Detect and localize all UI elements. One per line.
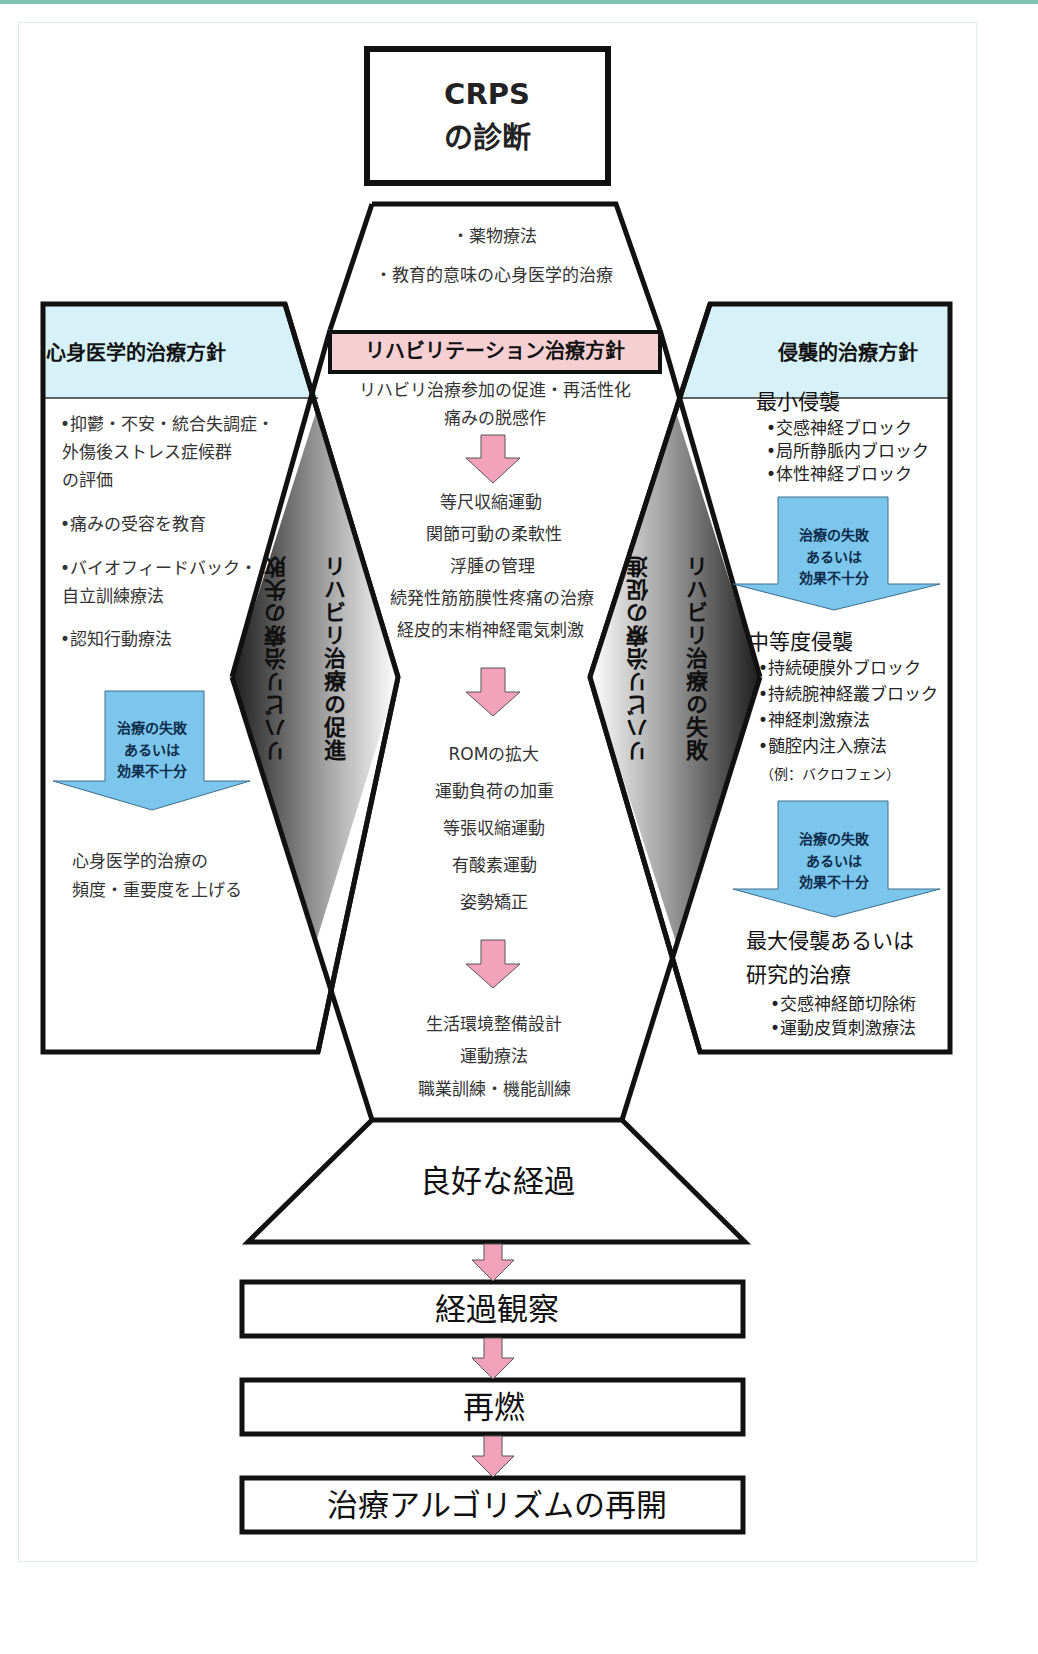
psychosomatic-escalation: 心身医学的治療の [72,853,208,870]
invasive-minimal-item: •体性神経ブロック [766,466,912,483]
right-diamond-outer-label: リハビリ治療の失敗 [678,555,710,762]
left-diamond-outer-label: リハビリ治療の失敗 [262,555,294,762]
right-diamond-inner-label: リハビリ治療の促進 [624,555,656,762]
followup-relapse: 再燃 [463,1392,525,1423]
failure-arrow-right-2-label: 治療の失敗 あるいは 効果不十分 [799,829,869,894]
invasive-minimal-item: •局所静脈内ブロック [766,443,929,460]
initial-treatment-item: ・薬物療法 [452,228,537,245]
pink-arrow-6 [472,1436,514,1477]
left-diamond-inner-label: リハビリ治療の促進 [316,555,348,762]
diagnosis-title: CRPS [444,80,530,109]
invasive-maximal-item: •交感神経節切除術 [770,996,916,1013]
rehab-stage2-item: 運動負荷の加重 [435,783,554,800]
left-diamond [232,412,398,942]
psychosomatic-item: •痛みの受容を教育 [60,516,206,533]
rehab-stage3-item: 生活環境整備設計 [426,1016,562,1033]
pink-arrow-3 [466,940,520,988]
rehab-stage1-item: 続発性筋筋膜性疼痛の治療 [390,590,594,607]
rehab-stage2-item: 姿勢矯正 [460,894,528,911]
invasive-moderate-item: •持続腕神経叢ブロック [758,686,938,703]
pink-arrow-5 [472,1338,514,1379]
pink-arrow-2 [466,668,520,716]
followup-observation: 経過観察 [435,1294,559,1325]
invasive-maximal-title: 最大侵襲あるいは [746,931,914,952]
psychosomatic-escalation: 頻度・重要度を上げる [72,882,242,899]
right-diamond [590,412,760,942]
rehab-stage1-item: 等尺収縮運動 [440,494,542,511]
invasive-maximal-item: •運動皮質刺激療法 [770,1020,916,1037]
failure-arrow-right-1-label: 治療の失敗 あるいは 効果不十分 [799,525,869,590]
rehab-stage1-item: 関節可動の柔軟性 [426,526,562,543]
rehab-stage3-item: 運動療法 [460,1048,528,1065]
psychosomatic-item: •認知行動療法 [60,631,172,648]
rehab-intro: 痛みの脱感作 [444,410,546,427]
pink-arrow-4 [472,1244,514,1281]
invasive-minimal-title: 最小侵襲 [756,392,840,413]
rehab-stage2-item: ROMの拡大 [449,746,540,763]
invasive-moderate-item: •髄腔内注入療法 [758,738,887,755]
diagnosis-box [367,49,608,183]
invasive-minimal-item: •交感神経ブロック [766,420,912,437]
followup-restart: 治療アルゴリズムの再開 [327,1490,667,1521]
psychosomatic-header: 心身医学的治療方針 [46,343,226,363]
psychosomatic-item: •バイオフィードバック・ [60,560,257,577]
invasive-moderate-item: •神経刺激療法 [758,712,870,729]
rehab-stage1-item: 浮腫の管理 [450,558,535,575]
psychosomatic-item: •抑鬱・不安・統合失調症・ [60,416,274,433]
rehab-intro: リハビリ治療参加の促進・再活性化 [359,382,631,399]
psychosomatic-item: の評価 [62,472,113,489]
invasive-moderate-note: （例：バクロフェン） [760,767,900,781]
rehab-header: リハビリテーション治療方針 [365,341,625,361]
rehab-stage1-item: 経皮的末梢神経電気刺激 [397,622,584,639]
psychosomatic-item: 外傷後ストレス症候群 [62,444,232,461]
invasive-moderate-item: •持続硬膜外ブロック [758,660,921,677]
outcome-label: 良好な経過 [420,1166,575,1197]
invasive-moderate-title: 中等度侵襲 [748,632,853,653]
rehab-stage3-item: 職業訓練・機能訓練 [418,1081,571,1098]
initial-treatment-item: ・教育的意味の心身医学的治療 [375,267,613,284]
failure-arrow-left-label: 治療の失敗 あるいは 効果不十分 [117,718,187,783]
invasive-header: 侵襲的治療方針 [778,343,918,363]
rehab-stage2-item: 等張収縮運動 [443,820,545,837]
rehab-stage2-item: 有酸素運動 [452,857,537,874]
diagnosis-subtitle: の診断 [444,124,531,153]
invasive-maximal-title: 研究的治療 [746,965,851,986]
psychosomatic-item: 自立訓練療法 [62,588,164,605]
pink-arrow-1 [466,435,520,483]
